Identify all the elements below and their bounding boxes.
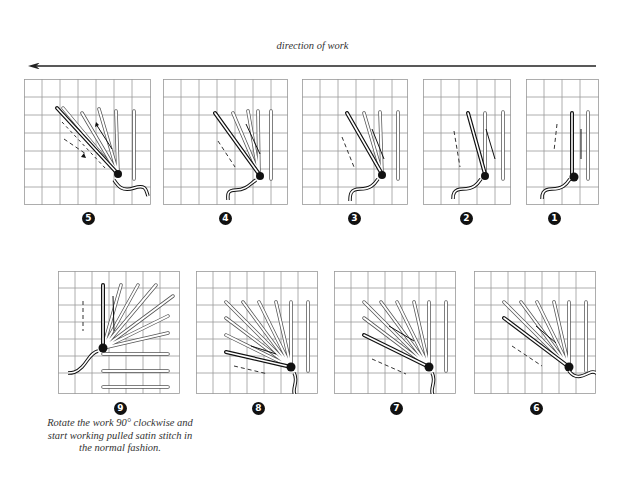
diagram-step-4: 4: [163, 79, 288, 205]
stitch-grid: [302, 79, 408, 205]
step-number-badge: 9: [114, 402, 127, 415]
stitch-grid: [163, 79, 288, 205]
stitch-grid: [334, 271, 456, 394]
diagram-step-6: 6: [474, 271, 596, 394]
diagram-step-2: 2: [423, 79, 511, 205]
step-number-badge: 6: [530, 402, 543, 415]
diagram-step-7: 7: [334, 271, 456, 394]
diagram-step-1: 1: [526, 79, 599, 205]
diagram-step-8: 8: [196, 271, 318, 394]
stitch-grid: [24, 79, 151, 205]
step-number-badge: 8: [252, 402, 265, 415]
stitch-grid: [58, 271, 180, 394]
step-number-badge: 1: [548, 212, 561, 225]
stitch-grid: [474, 271, 596, 394]
stitch-grid: [423, 79, 511, 205]
diagram-step-9: 9: [58, 271, 180, 394]
stitch-grid: [526, 79, 599, 205]
direction-arrow-icon: [28, 63, 596, 69]
step-number-badge: 2: [460, 212, 473, 225]
diagram-step-5: 5: [24, 79, 151, 205]
rotation-instruction-note: Rotate the work 90° clockwise and start …: [45, 417, 195, 455]
step-number-badge: 7: [390, 402, 403, 415]
step-number-badge: 3: [348, 212, 361, 225]
direction-of-work-label: direction of work: [0, 40, 625, 51]
step-number-badge: 5: [82, 212, 95, 225]
diagram-step-3: 3: [302, 79, 408, 205]
step-number-badge: 4: [219, 212, 232, 225]
stitch-grid: [196, 271, 318, 394]
